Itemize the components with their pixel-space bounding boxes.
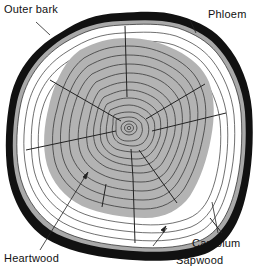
label-phloem: Phloem xyxy=(208,8,247,20)
label-heartwood: Heartwood xyxy=(4,252,59,264)
label-sapwood: Sapwood xyxy=(176,254,223,266)
label-cambium: Cambium xyxy=(192,237,240,249)
label-outer-bark: Outer bark xyxy=(4,3,58,15)
tree-cross-section-diagram xyxy=(0,0,256,269)
